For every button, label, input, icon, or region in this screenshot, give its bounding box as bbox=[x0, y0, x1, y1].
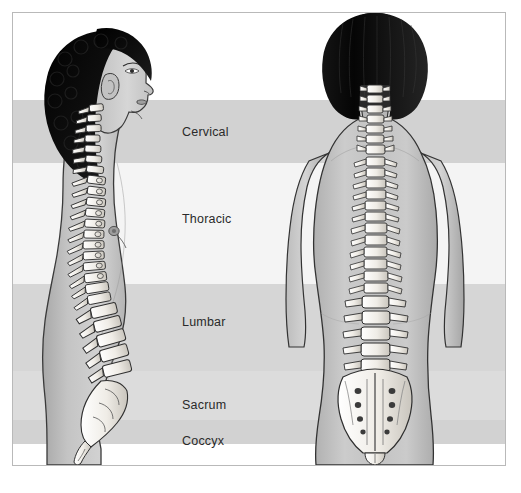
illustration-canvas bbox=[13, 13, 505, 465]
lateral-lips bbox=[137, 100, 147, 104]
lateral-ear bbox=[101, 73, 119, 99]
spine-anatomy-illustration: Cervical Thoracic Lumbar Sacrum Coccyx bbox=[0, 0, 521, 493]
